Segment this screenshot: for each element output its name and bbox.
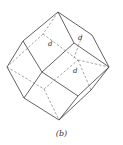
distance-label-d: d bbox=[78, 34, 83, 42]
visible-edges bbox=[7, 12, 109, 120]
rhombic-dodecahedron-figure: d d d bbox=[0, 0, 123, 145]
figure-caption: (b) bbox=[0, 129, 123, 138]
distance-label-d: d bbox=[73, 67, 78, 75]
hidden-edges bbox=[7, 12, 109, 120]
distance-label-d: d bbox=[48, 40, 53, 48]
polyhedron-drawing: d d d bbox=[0, 0, 123, 145]
